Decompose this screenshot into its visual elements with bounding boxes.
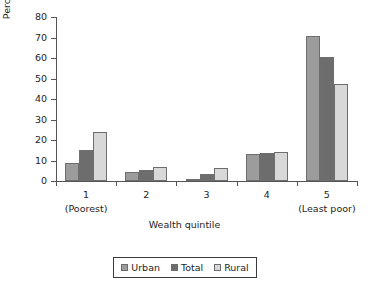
plot-area <box>56 17 357 181</box>
bar-total-1[interactable] <box>79 150 93 181</box>
bar-total-5[interactable] <box>320 57 334 181</box>
y-axis-tick-label: 10 <box>7 156 47 166</box>
x-axis-title: Wealth quintile <box>0 219 369 230</box>
x-axis-category-sublabel: (Least poor) <box>282 203 369 214</box>
bar-urban-3[interactable] <box>186 179 200 181</box>
x-axis-tick <box>116 181 117 186</box>
y-axis-tick-label: 70 <box>7 33 47 43</box>
legend-label: Urban <box>131 263 160 273</box>
x-axis-tick <box>357 181 358 186</box>
x-axis-category-label: 5 <box>324 189 330 200</box>
bar-urban-1[interactable] <box>65 163 79 181</box>
legend-entry-total[interactable]: Total <box>171 263 203 273</box>
bar-chart-figure: Percentage of residents 0102030405060708… <box>0 0 369 288</box>
bar-total-2[interactable] <box>139 170 153 181</box>
legend-label: Total <box>181 263 203 273</box>
y-axis-tick-label: 0 <box>7 176 47 186</box>
bar-urban-5[interactable] <box>306 36 320 181</box>
bar-total-4[interactable] <box>260 153 274 181</box>
x-axis-line <box>56 181 357 182</box>
x-axis-category-label: 2 <box>143 189 149 200</box>
x-axis-category-5: 5(Least poor) <box>282 189 369 214</box>
bar-group <box>246 17 288 181</box>
bar-group <box>65 17 107 181</box>
y-axis-tick-label: 50 <box>7 74 47 84</box>
legend-entry-rural[interactable]: Rural <box>214 263 249 273</box>
bar-urban-4[interactable] <box>246 154 260 181</box>
y-axis-tick-label: 30 <box>7 115 47 125</box>
bar-group <box>186 17 228 181</box>
y-axis-tick-label: 80 <box>7 12 47 22</box>
legend-swatch-icon <box>171 264 178 271</box>
y-axis-tick-label: 60 <box>7 53 47 63</box>
x-axis-tick <box>297 181 298 186</box>
x-axis-category-sublabel: (Poorest) <box>41 203 131 214</box>
x-axis-tick <box>56 181 57 186</box>
bar-total-3[interactable] <box>200 174 214 181</box>
x-axis-tick <box>176 181 177 186</box>
x-axis-tick <box>237 181 238 186</box>
bar-group <box>306 17 348 181</box>
chart-legend: UrbanTotalRural <box>113 257 257 278</box>
bar-rural-4[interactable] <box>274 152 288 181</box>
bar-rural-3[interactable] <box>214 168 228 181</box>
bar-rural-5[interactable] <box>334 84 348 181</box>
x-axis-category-label: 3 <box>203 189 209 200</box>
bar-urban-2[interactable] <box>125 172 139 181</box>
y-axis-tick-label: 40 <box>7 94 47 104</box>
legend-entry-urban[interactable]: Urban <box>121 263 160 273</box>
bar-group <box>125 17 167 181</box>
bar-rural-1[interactable] <box>93 132 107 181</box>
legend-swatch-icon <box>121 264 128 271</box>
legend-label: Rural <box>224 263 249 273</box>
legend-swatch-icon <box>214 264 221 271</box>
x-axis-category-label: 4 <box>264 189 270 200</box>
bar-rural-2[interactable] <box>153 167 167 181</box>
y-axis-tick-label: 20 <box>7 135 47 145</box>
x-axis-category-label: 1 <box>83 189 89 200</box>
